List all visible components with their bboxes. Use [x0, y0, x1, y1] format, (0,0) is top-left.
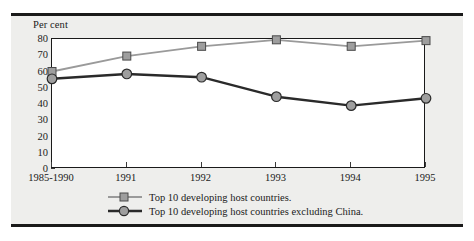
data-point: [346, 101, 356, 111]
legend-swatch-square: [107, 190, 143, 204]
figure: Per cent 01020304050607080 1985-19901991…: [0, 0, 474, 241]
x-tick-label: 1991: [115, 172, 136, 183]
x-tick-mark: [201, 162, 202, 167]
y-axis-title: Per cent: [33, 19, 68, 30]
series-layer: [52, 39, 426, 169]
y-tick-label: 20: [28, 130, 48, 141]
series-1: [48, 36, 430, 76]
legend-label: Top 10 developing host countries excludi…: [149, 206, 363, 217]
x-tick-label: 1994: [340, 172, 361, 183]
x-tick-label: 1992: [190, 172, 211, 183]
legend-label: Top 10 developing host countries.: [149, 192, 291, 203]
series-line: [52, 40, 426, 72]
data-point: [47, 74, 57, 84]
data-point: [347, 42, 355, 50]
x-tick-mark: [350, 162, 351, 167]
y-tick-label: 30: [28, 114, 48, 125]
data-point: [198, 42, 206, 50]
data-point: [123, 52, 131, 60]
x-tick-mark: [126, 162, 127, 167]
data-point: [272, 92, 282, 102]
x-axis-ticks: [51, 162, 425, 168]
legend-item-top10: Top 10 developing host countries.: [107, 190, 407, 204]
data-point: [197, 72, 207, 82]
x-tick-mark: [51, 162, 52, 167]
y-tick-label: 50: [28, 81, 48, 92]
plot-area: [51, 38, 425, 168]
x-tick-mark: [425, 162, 426, 167]
legend-swatch-circle: [107, 204, 143, 218]
series-line: [52, 74, 426, 106]
x-axis-tick-labels: 1985-199019911992199319941995: [51, 172, 425, 188]
x-tick-label: 1993: [265, 172, 286, 183]
y-tick-label: 60: [28, 65, 48, 76]
legend-item-top10-ex-china: Top 10 developing host countries excludi…: [107, 204, 407, 218]
y-axis-tick-labels: 01020304050607080: [26, 38, 48, 168]
y-tick-label: 70: [28, 49, 48, 60]
y-tick-label: 10: [28, 146, 48, 157]
x-tick-label: 1985-1990: [28, 172, 74, 183]
plot-inner: [52, 39, 424, 167]
data-point: [421, 94, 431, 104]
x-tick-mark: [275, 162, 276, 167]
y-tick-label: 80: [28, 33, 48, 44]
legend: Top 10 developing host countries. Top 10…: [107, 190, 407, 218]
x-tick-label: 1995: [415, 172, 436, 183]
series-2: [47, 69, 431, 110]
data-point: [122, 69, 132, 79]
data-point: [422, 37, 430, 45]
y-tick-label: 40: [28, 98, 48, 109]
bottom-rule: [11, 224, 463, 227]
data-point: [272, 36, 280, 44]
